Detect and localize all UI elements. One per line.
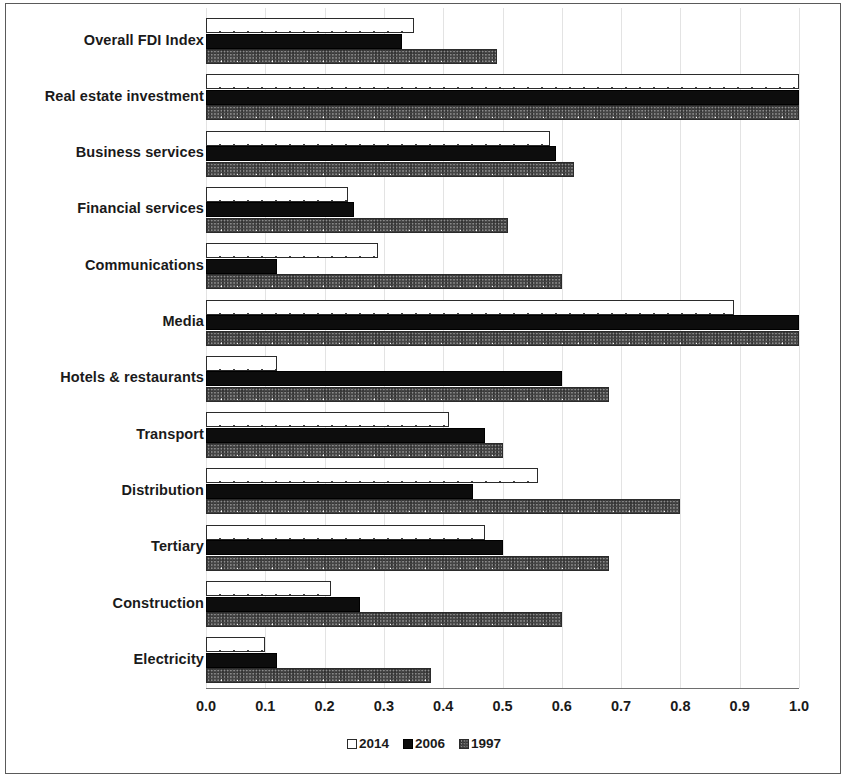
legend-swatch-icon [403,739,413,749]
chart-row: Tertiary [6,525,842,571]
bar-1997-overall-fdi-index [206,49,497,64]
x-tick-label: 0.6 [542,698,582,714]
x-tick-label: 0.3 [364,698,404,714]
bar-1997-media [206,331,799,346]
bar-2006-financial-services [206,202,354,217]
bar-2006-electricity [206,653,277,668]
bar-1997-transport [206,443,503,458]
bar-1997-distribution [206,499,680,514]
legend-item-2006[interactable]: 2006 [403,736,445,751]
category-label: Hotels & restaurants [60,369,204,385]
x-tick-label: 0.0 [186,698,226,714]
x-tick-label: 0.8 [660,698,700,714]
bar-2014-construction [206,581,331,596]
legend-label: 2014 [359,736,389,751]
bar-2014-media [206,300,734,315]
x-tick-label: 0.2 [305,698,345,714]
chart-row: Distribution [6,468,842,514]
legend-label: 2006 [415,736,445,751]
chart-legend: 201420061997 [6,736,842,751]
bar-1997-electricity [206,668,431,683]
category-label: Communications [85,257,204,273]
bar-2014-business-services [206,131,550,146]
legend-item-1997[interactable]: 1997 [459,736,501,751]
category-label: Tertiary [151,538,204,554]
chart-plot-area: Overall FDI IndexReal estate investmentB… [6,4,842,775]
chart-row: Business services [6,131,842,177]
x-tick-label: 0.1 [245,698,285,714]
bar-2014-financial-services [206,187,348,202]
bar-2006-hotels-restaurants [206,371,562,386]
x-tick-label: 0.7 [601,698,641,714]
category-label: Construction [113,595,204,611]
chart-row: Transport [6,412,842,458]
bar-1997-hotels-restaurants [206,387,609,402]
bar-2014-distribution [206,468,538,483]
bar-2006-business-services [206,146,556,161]
bar-2014-electricity [206,637,265,652]
chart-row: Media [6,300,842,346]
chart-row: Hotels & restaurants [6,356,842,402]
bar-2014-real-estate-investment [206,74,799,89]
bar-2006-real-estate-investment [206,90,799,105]
legend-swatch-icon [459,739,469,749]
legend-item-2014[interactable]: 2014 [347,736,389,751]
bar-2006-transport [206,428,485,443]
category-label: Real estate investment [45,88,204,104]
bar-2006-distribution [206,484,473,499]
bar-1997-financial-services [206,218,508,233]
x-tick-label: 0.4 [423,698,463,714]
bar-2014-overall-fdi-index [206,18,414,33]
chart-row: Real estate investment [6,74,842,120]
bar-2006-construction [206,597,360,612]
category-label: Financial services [77,200,204,216]
bar-1997-tertiary [206,556,609,571]
x-tick-label: 0.9 [720,698,760,714]
bar-2006-tertiary [206,540,503,555]
x-tick-label: 0.5 [483,698,523,714]
bar-2006-media [206,315,799,330]
chart-frame: Overall FDI IndexReal estate investmentB… [5,3,841,774]
bar-1997-construction [206,612,562,627]
category-label: Transport [136,426,204,442]
chart-row: Financial services [6,187,842,233]
chart-row: Electricity [6,637,842,683]
bar-2014-transport [206,412,449,427]
x-tick-label: 1.0 [779,698,819,714]
legend-swatch-icon [347,739,357,749]
category-label: Media [162,313,204,329]
bar-2014-tertiary [206,525,485,540]
bar-2006-communications [206,259,277,274]
bar-2006-overall-fdi-index [206,34,402,49]
chart-row: Overall FDI Index [6,18,842,64]
x-axis-line [206,688,799,689]
bar-2014-communications [206,243,378,258]
category-label: Distribution [121,482,204,498]
bar-1997-communications [206,274,562,289]
bar-1997-business-services [206,162,574,177]
category-label: Electricity [134,651,204,667]
bar-2014-hotels-restaurants [206,356,277,371]
legend-label: 1997 [471,736,501,751]
chart-row: Communications [6,243,842,289]
chart-row: Construction [6,581,842,627]
category-label: Business services [76,144,204,160]
bar-1997-real-estate-investment [206,105,799,120]
category-label: Overall FDI Index [84,32,204,48]
